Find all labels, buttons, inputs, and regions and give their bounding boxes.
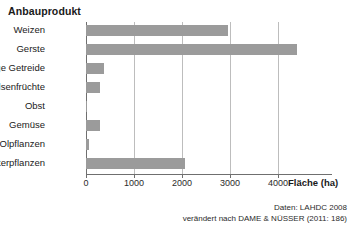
x-tick-label: 1000 [114,178,154,188]
x-axis-title: Fläche (ha) [288,177,338,188]
bar-row: Olpflanzen [86,136,326,155]
bar [86,101,87,112]
bar [86,63,104,74]
bar-row: Weizen [86,22,326,41]
category-label: Gemüse [0,119,45,130]
category-label: Olpflanzen [0,138,45,149]
plot-area: WeizenGerstesonstige GetreideHülsenfrüch… [86,22,326,174]
x-tick-label: 0 [66,178,106,188]
category-label: Gerste [0,43,45,54]
chart-source-note: Daten: LAHDC 2008 verändert nach DAME & … [0,203,347,224]
category-label: Futterpflanzen [0,157,45,168]
x-axis-line [86,174,332,175]
bar [86,82,100,93]
chart-title: Anbauprodukt [8,5,81,17]
bar-row: Hülsenfrüchte [86,79,326,98]
bar [86,25,228,36]
bar-row: Gerste [86,41,326,60]
bar [86,158,185,169]
bar [86,120,100,131]
bar-row: Gemüse [86,117,326,136]
bar-row: Obst [86,98,326,117]
category-label: Hülsenfrüchte [0,81,45,92]
x-tick-label: 2000 [162,178,202,188]
source-line-2: verändert nach DAME & NÜSSER (2011: 186) [0,214,347,225]
category-label: Obst [0,100,45,111]
x-tick-label: 3000 [210,178,250,188]
category-label: sonstige Getreide [0,62,45,73]
bar-row: sonstige Getreide [86,60,326,79]
bar-chart: Anbauprodukt WeizenGerstesonstige Getrei… [0,0,363,236]
bar [86,139,89,150]
source-line-1: Daten: LAHDC 2008 [0,203,347,214]
category-label: Weizen [0,24,45,35]
bar-row: Futterpflanzen [86,155,326,174]
bar [86,44,297,55]
